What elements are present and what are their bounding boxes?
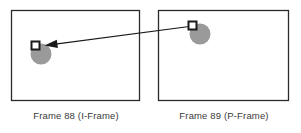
macroblock-marker-left xyxy=(32,42,40,50)
frame-caption-left: Frame 88 (I-Frame) xyxy=(11,110,141,122)
frame-motion-diagram: Frame 88 (I-Frame) Frame 89 (P-Frame) xyxy=(0,0,301,133)
macroblock-marker-right xyxy=(189,22,197,30)
frame-caption-right: Frame 89 (P-Frame) xyxy=(158,110,290,122)
frame-box-right xyxy=(159,11,289,101)
